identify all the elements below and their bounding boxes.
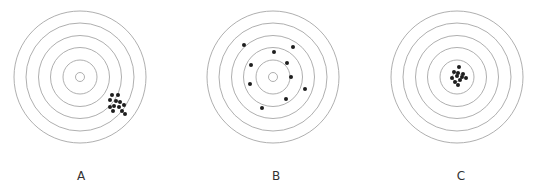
ring-circle [63,60,97,94]
target-label-a: A [77,169,86,183]
ring-circle [244,48,303,107]
shot-dot [111,109,115,113]
shot-dot [120,109,124,113]
shot-dot [249,63,253,67]
target-a: A [14,11,146,183]
shot-dot [291,45,295,49]
target-rings [14,11,146,143]
shot-group [242,43,307,110]
shot-dot [108,98,112,102]
shot-dot [464,76,468,80]
shot-dot [114,99,118,103]
ring-circle [256,60,290,94]
ring-circle [14,11,146,143]
shot-dot [458,78,462,82]
target-c: C [391,11,523,183]
ring-circle [51,48,110,107]
shot-dot [303,87,307,91]
target-b: B [207,11,339,183]
shot-dot [284,97,288,101]
shot-dot [450,76,454,80]
shot-dot [123,112,127,116]
shot-dot [110,93,114,97]
ring-circle [76,73,85,82]
shot-dot [248,82,252,86]
ring-circle [232,36,315,119]
shot-dot [456,83,460,87]
target-figure: A B C [0,0,533,189]
target-label-c: C [457,169,465,183]
shot-dot [242,43,246,47]
ring-circle [26,23,134,131]
shot-dot [457,65,461,69]
shot-dot [122,103,126,107]
ring-circle [269,73,278,82]
shot-dot [118,100,122,104]
shot-dot [453,80,457,84]
shot-dot [260,106,264,110]
shot-dot [117,105,121,109]
target-rings [207,11,339,143]
targets-diagram: A B C [0,0,533,189]
shot-dot [289,75,293,79]
shot-dot [108,105,112,109]
ring-circle [207,11,339,143]
shot-dot [112,104,116,108]
shot-dot [272,50,276,54]
ring-circle [219,23,327,131]
shot-dot [285,61,289,65]
shot-dot [455,74,459,78]
shot-dot [116,93,120,97]
target-label-b: B [272,169,280,183]
shot-dot [452,70,456,74]
